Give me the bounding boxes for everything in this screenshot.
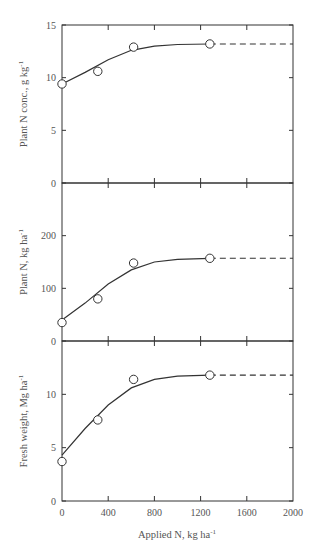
x-tick-label: 800 (147, 507, 162, 518)
y-tick-label: 15 (46, 20, 56, 31)
fit-curve (62, 258, 210, 320)
data-point-marker (206, 371, 214, 379)
plot-frames (62, 25, 293, 501)
x-tick-label: 400 (101, 507, 116, 518)
chart-figure: 051015010020005100400800120016002000 Pla… (0, 0, 317, 558)
data-point-marker (58, 80, 66, 88)
fit-curve (62, 375, 210, 455)
fit-curves (62, 44, 293, 455)
axis-ticks (62, 25, 293, 501)
panel-frame (62, 25, 293, 183)
panel-frame (62, 183, 293, 341)
data-point-marker (58, 457, 66, 465)
data-point-marker (94, 67, 102, 75)
y-axis-label: Fresh weight, Mg ha-1 (17, 374, 29, 467)
y-tick-label: 200 (41, 230, 56, 241)
y-axis-label: Plant N conc., g kg-1 (17, 60, 29, 147)
y-tick-label: 100 (41, 283, 56, 294)
data-point-marker (94, 416, 102, 424)
y-axis-label: Plant N, kg ha-1 (17, 229, 29, 295)
x-tick-label: 1600 (237, 507, 257, 518)
data-point-marker (58, 318, 66, 326)
y-tick-label: 5 (51, 125, 56, 136)
y-tick-label: 10 (46, 72, 56, 83)
data-point-marker (129, 259, 137, 267)
y-tick-label: 10 (46, 389, 56, 400)
data-point-marker (206, 40, 214, 48)
data-points (58, 40, 214, 466)
y-tick-label: 0 (51, 336, 56, 347)
y-tick-label: 0 (51, 178, 56, 189)
x-tick-label: 0 (60, 507, 65, 518)
data-point-marker (206, 254, 214, 262)
data-point-marker (129, 43, 137, 51)
y-tick-label: 0 (51, 496, 56, 507)
tick-labels: 051015010020005100400800120016002000 (41, 20, 303, 519)
x-tick-label: 1200 (191, 507, 211, 518)
data-point-marker (94, 295, 102, 303)
x-tick-label: 2000 (283, 507, 303, 518)
x-axis-label: Applied N, kg ha-1 (138, 528, 217, 540)
y-axis-labels: Plant N conc., g kg-1Plant N, kg ha-1Fre… (17, 60, 29, 467)
data-point-marker (129, 375, 137, 383)
y-tick-label: 5 (51, 442, 56, 453)
